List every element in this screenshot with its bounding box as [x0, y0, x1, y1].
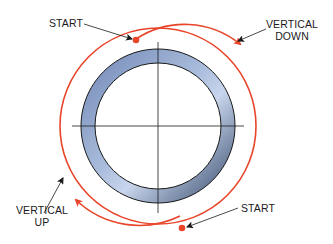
start-bottom-label: START [241, 202, 275, 214]
vertical-up-line2: UP [12, 216, 72, 228]
vertical-up-label: VERTICAL UP [12, 204, 72, 228]
vertical-up-line1: VERTICAL [12, 204, 72, 216]
top-direction-arc [136, 24, 240, 44]
start-top-label: START [49, 17, 83, 29]
bottom-direction-arc [76, 200, 180, 225]
vertical-down-line2: DOWN [260, 30, 324, 42]
vertical-down-line1: VERTICAL [260, 18, 324, 30]
leader-start-top [84, 24, 132, 39]
vertical-down-label: VERTICAL DOWN [260, 18, 324, 42]
start-dot-top [133, 37, 140, 44]
